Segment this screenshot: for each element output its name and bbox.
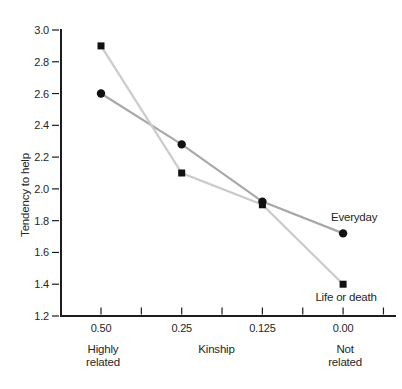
- x-tick-label: 0.00: [333, 322, 354, 334]
- y-tick-label: 2.4: [34, 119, 49, 131]
- marker-everyday: [258, 197, 266, 205]
- series-label-life-or-death: Life or death: [315, 291, 376, 303]
- marker-life-or-death: [178, 170, 185, 177]
- y-tick-label: 3.0: [34, 24, 49, 36]
- marker-life-or-death: [340, 281, 347, 288]
- x-end-label-left: related: [86, 356, 120, 368]
- marker-everyday: [339, 229, 347, 237]
- marker-everyday: [97, 89, 105, 97]
- x-end-label-right: Not: [336, 343, 354, 355]
- x-end-label-right: related: [328, 356, 362, 368]
- x-end-label-left: Highly: [88, 343, 119, 355]
- y-tick-label: 1.6: [34, 246, 49, 258]
- y-tick-label: 2.0: [34, 183, 49, 195]
- kinship-helping-chart: 1.21.41.61.82.02.22.42.62.83.00.500.250.…: [0, 0, 402, 389]
- x-tick-label: 0.25: [171, 322, 192, 334]
- y-tick-label: 2.8: [34, 56, 49, 68]
- x-tick-label: 0.125: [249, 322, 276, 334]
- marker-life-or-death: [98, 42, 105, 49]
- y-tick-label: 1.4: [34, 278, 49, 290]
- y-tick-label: 1.2: [34, 310, 49, 322]
- series-line-everyday: [101, 94, 343, 234]
- marker-everyday: [178, 140, 186, 148]
- y-tick-label: 2.6: [34, 88, 49, 100]
- x-axis-title: Kinship: [198, 343, 234, 355]
- series-label-everyday: Everyday: [331, 211, 378, 223]
- x-tick-label: 0.50: [91, 322, 112, 334]
- y-tick-label: 2.2: [34, 151, 49, 163]
- series-line-life-or-death: [101, 46, 343, 284]
- y-axis-title: Tendency to help: [19, 153, 31, 237]
- chart-canvas: 1.21.41.61.82.02.22.42.62.83.00.500.250.…: [0, 0, 402, 389]
- y-tick-label: 1.8: [34, 215, 49, 227]
